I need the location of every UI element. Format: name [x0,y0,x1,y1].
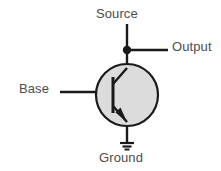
source-label: Source [96,6,138,21]
junction-dot-icon [123,46,131,54]
base-label: Base [19,81,49,96]
output-label: Output [172,39,212,54]
transistor-body-circle [96,64,158,126]
ground-label: Ground [99,150,143,165]
schematic-canvas: Source Output Base Ground [0,0,221,171]
